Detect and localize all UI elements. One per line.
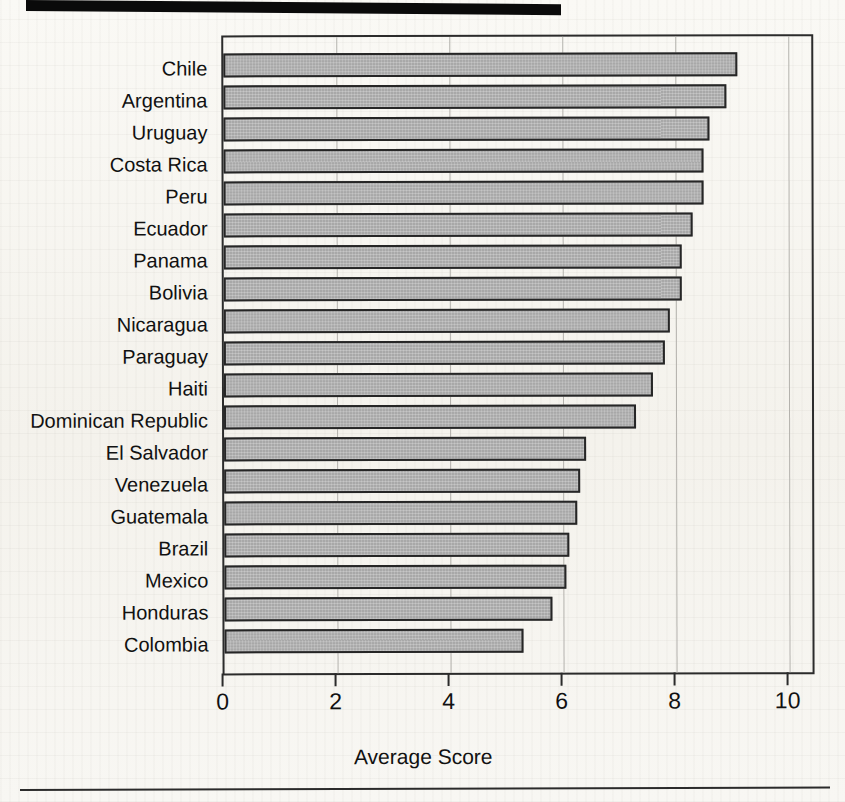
x-tick-label: 0 [216, 689, 229, 713]
bar [224, 244, 682, 269]
bar-row [224, 404, 816, 429]
horizontal-bar-chart: ChileArgentinaUruguayCosta RicaPeruEcuad… [0, 0, 845, 802]
x-axis-title: Average Score [1, 744, 845, 770]
category-label: Honduras [122, 602, 209, 622]
bar [224, 212, 693, 237]
bar [224, 180, 704, 205]
bar [223, 148, 703, 173]
category-label: Ecuador [133, 218, 208, 238]
bar [224, 565, 566, 590]
bar [224, 469, 580, 494]
x-tick-label: 10 [775, 688, 801, 712]
bar [224, 629, 523, 654]
bar-row [223, 116, 815, 141]
x-tick-mark [674, 672, 676, 685]
x-tick-label: 4 [442, 689, 455, 713]
bar [224, 533, 569, 558]
x-tick-mark [787, 672, 789, 685]
category-axis: ChileArgentinaUruguayCosta RicaPeruEcuad… [0, 40, 217, 648]
bar-row [224, 276, 816, 301]
category-label: Paraguay [122, 346, 208, 366]
bar [224, 373, 653, 398]
bar-row [224, 564, 816, 589]
category-label: Peru [165, 186, 207, 206]
category-label: Venezuela [115, 474, 208, 494]
bar [223, 116, 709, 141]
bar-row [223, 84, 815, 109]
category-label: Costa Rica [110, 154, 208, 174]
bar [224, 437, 586, 462]
x-tick-label: 6 [555, 689, 568, 713]
bar-row [224, 596, 816, 621]
bar [224, 405, 636, 430]
bar-row [224, 500, 816, 525]
bar [224, 308, 670, 333]
category-label: Mexico [145, 570, 208, 590]
bar-row [224, 532, 816, 557]
bar [224, 597, 552, 622]
bar-row [224, 212, 816, 237]
category-label: Haiti [168, 378, 208, 398]
bar-row [223, 148, 815, 173]
category-label: El Salvador [106, 442, 208, 462]
category-label: Panama [133, 250, 208, 270]
category-label: Bolivia [149, 282, 208, 302]
value-axis: 0246810 [223, 674, 823, 735]
x-tick-mark [222, 673, 224, 686]
bar [224, 276, 682, 301]
category-label: Dominican Republic [30, 410, 208, 430]
bar [224, 340, 665, 365]
bar-row [224, 180, 816, 205]
category-label: Colombia [124, 634, 209, 654]
bar [223, 84, 726, 109]
x-tick-mark [448, 673, 450, 686]
x-tick-mark [561, 673, 563, 686]
plot-area [221, 34, 814, 675]
category-label: Nicaragua [117, 314, 208, 334]
bar [223, 52, 737, 77]
bar-row [224, 244, 816, 269]
category-label: Argentina [122, 90, 208, 110]
bar-row [224, 372, 816, 397]
x-tick-label: 8 [668, 688, 681, 712]
x-tick-mark [335, 673, 337, 686]
bar-row [224, 468, 816, 493]
bar-row [224, 308, 816, 333]
bar-row [224, 340, 816, 365]
bar-row [223, 52, 815, 77]
bar-row [224, 436, 816, 461]
category-label: Chile [162, 58, 208, 78]
x-tick-label: 2 [329, 689, 342, 713]
bar [224, 501, 577, 526]
category-label: Guatemala [110, 506, 208, 526]
category-label: Brazil [158, 538, 208, 558]
bar-row [224, 628, 816, 653]
category-label: Uruguay [132, 122, 208, 142]
